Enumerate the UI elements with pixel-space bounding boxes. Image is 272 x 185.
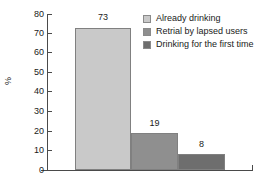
y-tick-0 xyxy=(47,170,52,171)
legend-swatch-icon-2 xyxy=(143,41,151,49)
legend-item-already-drinking[interactable]: Already drinking xyxy=(143,12,254,25)
y-tick-30 xyxy=(47,111,52,112)
bar-drinking-for-the-first-time[interactable] xyxy=(178,154,225,170)
legend-label-1: Retrial by lapsed users xyxy=(156,27,248,36)
y-axis-title: % xyxy=(4,77,13,85)
y-tick-10 xyxy=(47,150,52,151)
y-tick-40 xyxy=(47,91,52,92)
bar-value-label-2: 8 xyxy=(178,140,225,149)
y-tick-60 xyxy=(47,52,52,53)
y-tick-label-70: 70 xyxy=(14,29,44,38)
y-tick-label-30: 30 xyxy=(14,107,44,116)
bar-retrial-by-lapsed-users[interactable] xyxy=(131,133,178,170)
legend-label-2: Drinking for the first time xyxy=(156,40,254,49)
x-axis-line xyxy=(41,170,253,171)
y-tick-label-60: 60 xyxy=(14,48,44,57)
legend-swatch-icon-1 xyxy=(143,28,151,36)
legend: Already drinking Retrial by lapsed users… xyxy=(143,12,254,51)
y-tick-label-10: 10 xyxy=(14,146,44,155)
legend-item-retrial-by-lapsed-users[interactable]: Retrial by lapsed users xyxy=(143,25,254,38)
x-axis-end-tick xyxy=(252,165,253,171)
y-tick-label-80: 80 xyxy=(14,10,44,19)
bar-value-label-1: 19 xyxy=(131,119,178,128)
y-tick-50 xyxy=(47,72,52,73)
y-tick-label-0: 0 xyxy=(14,166,44,175)
y-tick-20 xyxy=(47,131,52,132)
legend-swatch-icon-0 xyxy=(143,15,151,23)
y-tick-70 xyxy=(47,33,52,34)
y-tick-label-50: 50 xyxy=(14,68,44,77)
y-tick-label-20: 20 xyxy=(14,127,44,136)
bar-chart: % 80 70 60 50 40 30 20 10 0 73 19 8 Alre… xyxy=(0,0,272,185)
y-tick-80 xyxy=(47,14,52,15)
bar-already-drinking[interactable] xyxy=(75,28,131,170)
bar-value-label-0: 73 xyxy=(75,13,131,22)
legend-item-drinking-for-the-first-time[interactable]: Drinking for the first time xyxy=(143,38,254,51)
y-tick-label-40: 40 xyxy=(14,87,44,96)
y-axis-line xyxy=(47,14,48,171)
legend-label-0: Already drinking xyxy=(156,14,221,23)
